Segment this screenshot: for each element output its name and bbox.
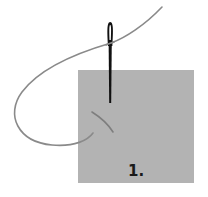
step-number-label: 1. [128, 162, 144, 180]
sewing-step-diagram: 1. [0, 0, 208, 197]
